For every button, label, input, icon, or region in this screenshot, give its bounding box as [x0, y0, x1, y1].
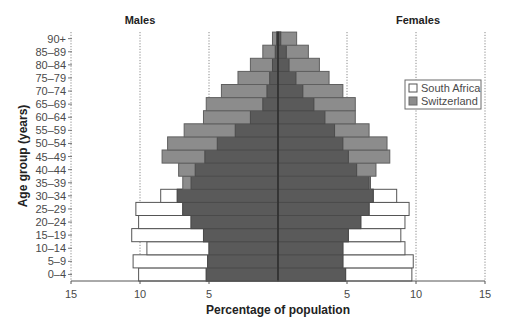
- bar-overlap-males: [195, 163, 278, 176]
- bar-overlap-females: [278, 202, 369, 215]
- y-axis-age-labels: 0–45–910–1415–1920–2425–2930–3435–3940–4…: [35, 33, 72, 281]
- bar-overlap-males: [191, 176, 278, 189]
- x-tick-label: 15: [65, 288, 77, 300]
- bar-overlap-males: [267, 85, 278, 98]
- x-axis-title: Percentage of population: [206, 303, 350, 317]
- age-group-label: 50–54: [35, 137, 66, 149]
- age-group-label: 85–89: [35, 46, 66, 58]
- age-group-label: 30–34: [35, 190, 66, 202]
- bar-overlap-males: [217, 137, 278, 150]
- age-group-label: 45–49: [35, 151, 66, 163]
- bar-overlap-females: [278, 58, 289, 71]
- bar-overlap-males: [209, 242, 278, 255]
- age-group-label: 25–29: [35, 203, 66, 215]
- bar-overlap-females: [278, 229, 348, 242]
- population-pyramid-chart: 1510551015 0–45–910–1415–1920–2425–2930–…: [0, 0, 507, 331]
- bar-overlap-females: [278, 85, 303, 98]
- age-group-label: 20–24: [35, 216, 66, 228]
- bar-overlap-females: [278, 189, 373, 202]
- bar-overlap-females: [278, 137, 343, 150]
- bar-overlap-females: [278, 176, 369, 189]
- x-tick-label: 10: [410, 288, 422, 300]
- x-tick-label: 15: [479, 288, 491, 300]
- bar-overlap-females: [278, 268, 346, 281]
- bar-overlap-females: [278, 150, 348, 163]
- x-tick-label: 10: [134, 288, 146, 300]
- bar-overlap-males: [206, 268, 278, 281]
- age-group-label: 60–64: [35, 111, 66, 123]
- bar-overlap-males: [177, 189, 278, 202]
- x-tick-label: 5: [344, 288, 350, 300]
- bar-overlap-males: [183, 202, 278, 215]
- age-group-label: 70–74: [35, 85, 66, 97]
- age-group-label: 0–4: [48, 268, 66, 280]
- age-group-label: 10–14: [35, 242, 66, 254]
- bars: [132, 32, 414, 281]
- females-title: Females: [396, 14, 440, 26]
- bar-overlap-females: [278, 111, 325, 124]
- bar-overlap-males: [263, 98, 278, 111]
- legend: South Africa Switzerland: [405, 80, 481, 109]
- bar-overlap-females: [278, 124, 335, 137]
- age-group-label: 35–39: [35, 177, 66, 189]
- bar-overlap-males: [208, 255, 278, 268]
- age-group-label: 65–69: [35, 98, 66, 110]
- bar-overlap-females: [278, 45, 286, 58]
- age-group-label: 40–44: [35, 164, 66, 176]
- x-axis: 1510551015: [65, 281, 491, 300]
- age-group-label: 80–84: [35, 59, 66, 71]
- legend-swatch-switzerland: [409, 97, 417, 105]
- males-title: Males: [125, 14, 156, 26]
- bar-overlap-females: [278, 98, 314, 111]
- bar-overlap-males: [191, 216, 278, 229]
- bar-overlap-females: [278, 71, 296, 84]
- bar-overlap-males: [250, 111, 278, 124]
- bar-overlap-males: [205, 150, 278, 163]
- legend-label-switzerland: Switzerland: [421, 95, 478, 107]
- age-group-label: 55–59: [35, 124, 66, 136]
- bar-overlap-females: [278, 163, 357, 176]
- bar-overlap-males: [235, 124, 278, 137]
- legend-label-south-africa: South Africa: [421, 82, 481, 94]
- y-axis-title: Age group (years): [16, 105, 30, 208]
- legend-swatch-south-africa: [409, 84, 417, 92]
- bar-overlap-males: [272, 58, 278, 71]
- bar-overlap-females: [278, 255, 343, 268]
- bar-overlap-males: [270, 71, 278, 84]
- age-group-label: 5–9: [48, 255, 66, 267]
- bar-overlap-males: [203, 229, 278, 242]
- age-group-label: 15–19: [35, 229, 66, 241]
- bar-overlap-females: [278, 242, 343, 255]
- age-group-label: 90+: [47, 33, 66, 45]
- age-group-label: 75–79: [35, 72, 66, 84]
- bar-overlap-females: [278, 216, 361, 229]
- x-tick-label: 5: [206, 288, 212, 300]
